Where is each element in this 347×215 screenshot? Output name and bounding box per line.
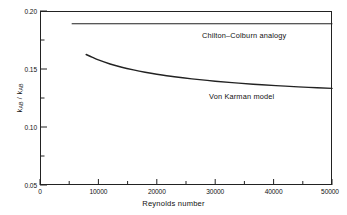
y-axis-title-separator: / k <box>15 91 24 102</box>
x-axis-title: Reynolds number <box>0 199 347 208</box>
annotation-von-karman: Von Karman model <box>209 92 274 101</box>
y-axis-title-numerator-subscript: AB <box>18 101 24 108</box>
y-axis-title-denominator-subscript: AB <box>18 84 24 91</box>
x-tick-label-40000: 40000 <box>265 188 283 195</box>
x-tick-label-10000: 10000 <box>89 188 107 195</box>
y-tick-label-005: 0.05 <box>25 182 37 189</box>
y-axis-minor-ticks <box>40 40 45 156</box>
plot-area <box>40 11 332 185</box>
series-line-von-karman <box>86 55 332 89</box>
y-tick-label-010: 0.10 <box>25 124 37 131</box>
y-axis-title-wrapper: kAB / kAB <box>13 60 25 136</box>
y-tick-label-020: 0.20 <box>25 8 37 15</box>
x-tick-label-20000: 20000 <box>148 188 166 195</box>
y-tick-label-015: 0.15 <box>25 66 37 73</box>
x-tick-label-0: 0 <box>38 188 42 195</box>
y-axis-title-numerator: k <box>15 108 24 112</box>
y-axis-title: kAB / kAB <box>15 84 24 113</box>
x-axis-minor-ticks <box>69 181 303 185</box>
annotation-chilton-colburn: Chilton–Colburn analogy <box>202 31 286 40</box>
chart-figure: 0.20 0.15 0.10 0.05 0 10000 20000 30000 … <box>0 0 347 215</box>
x-tick-label-50000: 50000 <box>321 188 339 195</box>
x-tick-label-30000: 30000 <box>206 188 224 195</box>
